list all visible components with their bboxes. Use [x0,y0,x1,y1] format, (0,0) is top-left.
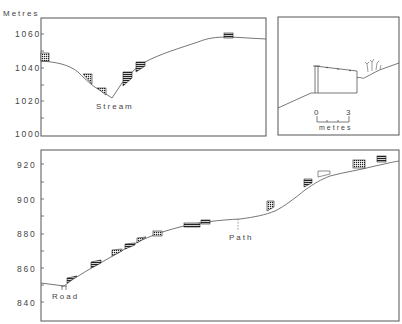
tick-1040: 1040 [15,63,41,73]
tick-900: 900 [17,195,37,205]
house-icon [184,223,200,227]
bottom-frame [41,150,399,321]
house-icon [97,88,106,95]
house-icon [377,156,386,162]
unfilled-house-icon [318,171,330,177]
scale-bar [317,116,349,122]
road-marker [61,286,67,290]
house-icon [224,33,233,38]
tick-880: 880 [17,229,37,239]
bottom-panel: 920 900 880 860 840 Road Path [17,150,399,321]
y-axis-title: Metres [3,9,39,18]
road-label: Road [52,292,79,301]
house-icon [91,260,101,268]
tick-1000: 1000 [15,129,41,139]
slope-profile-line [41,161,399,286]
tick-920: 920 [17,160,37,170]
tick-840: 840 [17,298,37,308]
scale-unit-label: metres [319,124,352,131]
house-icon [153,231,162,236]
house-icon [201,220,210,224]
ground-section-line [278,63,399,108]
tick-1060: 1060 [15,29,41,39]
scale-end-label: 3 [346,108,352,117]
house-icon [83,74,92,84]
house-icon [112,249,122,256]
valley-profile-line [41,37,266,98]
top-right-frame [278,17,399,135]
house-icon [125,243,135,249]
house-icon [353,160,365,168]
house-icon [137,237,146,243]
top-right-panel: 0 3 metres [278,17,399,135]
house-icon [267,201,274,211]
stream-label: Stream [96,102,134,111]
tick-860: 860 [17,264,37,274]
diagram-canvas: Metres 1060 1040 1020 1000 Stream [0,0,402,324]
house-icon [41,53,49,61]
scale-start-label: 0 [314,108,320,117]
top-left-panel: Metres 1060 1040 1020 1000 Stream [3,9,266,139]
house-icon [136,62,145,72]
tick-1020: 1020 [15,96,41,106]
house-icon [67,276,77,283]
path-label: Path [229,233,253,242]
house-icon [123,72,132,86]
